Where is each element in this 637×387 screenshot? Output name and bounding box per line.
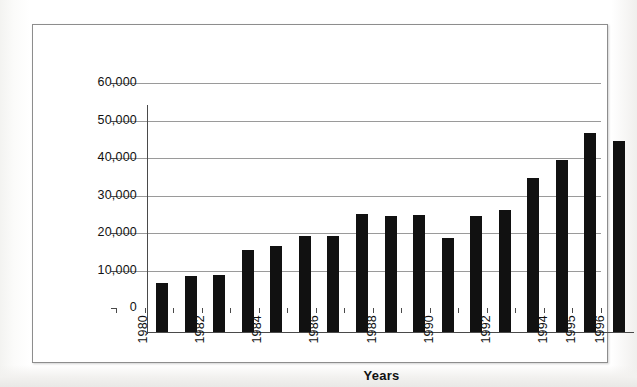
y-axis-tick-label: 0 (66, 300, 137, 314)
bar (613, 141, 625, 332)
x-axis-tick-label: 1994 (536, 315, 550, 344)
bar (527, 178, 539, 332)
x-axis-tick (173, 308, 174, 313)
x-axis-tick-label: 1996 (593, 315, 607, 344)
y-axis-tick-label: 10,000 (66, 263, 137, 277)
x-axis-tick (430, 308, 431, 313)
bar (556, 160, 568, 333)
gridline (116, 83, 601, 84)
x-axis-tick (230, 308, 231, 313)
x-axis-tick (401, 308, 402, 313)
bar (156, 283, 168, 332)
x-axis-tick-label: 1986 (307, 315, 321, 344)
x-axis-tick-label: 1980 (136, 315, 150, 344)
y-axis-tick-label: 20,000 (66, 225, 137, 239)
x-axis-tick (487, 308, 488, 313)
bar (213, 275, 225, 332)
bar (385, 216, 397, 332)
x-axis-tick (601, 308, 602, 313)
x-axis-tick (316, 308, 317, 313)
x-axis-tick-label: 1988 (365, 315, 379, 344)
x-axis-tick (202, 308, 203, 313)
x-axis-tick (458, 308, 459, 313)
x-axis-tick (259, 308, 260, 313)
x-axis-tick (145, 308, 146, 313)
x-axis-tick-label: 1982 (193, 315, 207, 344)
x-axis-tick (287, 308, 288, 313)
x-axis-title: Years (33, 368, 637, 383)
chart-frame: 010,00020,00030,00040,00050,00060,000 19… (32, 24, 608, 363)
bar (584, 133, 596, 332)
bar (270, 246, 282, 332)
x-axis-tick (373, 308, 374, 313)
x-axis-tick (544, 308, 545, 313)
x-axis-tick-label: 1990 (422, 315, 436, 344)
bar (499, 210, 511, 332)
x-axis-tick-label: 1984 (250, 315, 264, 344)
bar (327, 236, 339, 332)
x-axis-tick-label: 1992 (479, 315, 493, 344)
x-axis-line (147, 332, 634, 333)
bar-series (148, 107, 633, 332)
bar (442, 238, 454, 332)
x-axis-tick (515, 308, 516, 313)
y-axis-tick-label: 30,000 (66, 188, 137, 202)
y-axis-tick-label: 40,000 (66, 150, 137, 164)
y-axis-tick-label: 50,000 (66, 113, 137, 127)
y-axis-tick-labels: 010,00020,00030,00040,00050,00060,000 (33, 25, 137, 387)
x-axis-tick (344, 308, 345, 313)
y-axis-tick-label: 60,000 (66, 75, 137, 89)
x-axis-title-text: Years (363, 368, 399, 383)
x-axis-tick (572, 308, 573, 313)
x-axis-tick (116, 308, 117, 313)
x-axis-tick-label: 1995 (564, 315, 578, 344)
